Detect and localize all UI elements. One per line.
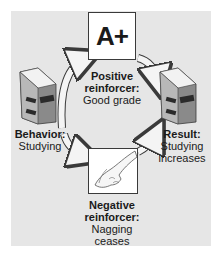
grade-text: A+ (96, 21, 128, 52)
book-icon-result (156, 66, 200, 126)
grade-card: A+ (88, 12, 136, 60)
book-icon-behavior (16, 66, 60, 126)
hand-card (88, 148, 138, 194)
negative-reinforcer-label: Negative reinforcer: Nagging ceases (80, 199, 144, 247)
positive-reinforcer-label: Positive reinforcer: Good grade (82, 70, 142, 106)
result-label: Result: Studying increases (154, 128, 210, 164)
behavior-label: Behavior: Studying (12, 128, 68, 152)
pointing-hand-icon (89, 149, 137, 193)
